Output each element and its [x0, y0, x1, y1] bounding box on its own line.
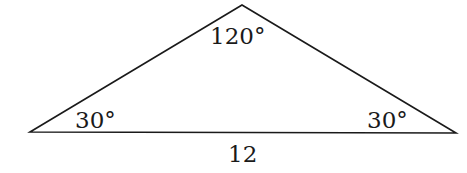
triangle-diagram: 120° 30° 30° 12	[0, 0, 467, 173]
angle-top-label: 120°	[210, 23, 265, 49]
angle-left-label: 30°	[75, 107, 116, 133]
angle-right-label: 30°	[367, 107, 408, 133]
base-length-label: 12	[228, 141, 257, 167]
